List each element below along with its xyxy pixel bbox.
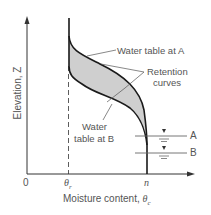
tick-n: n [144,178,149,188]
annotation-water-b-2: table at B [74,134,114,144]
leader-water-table-b [103,104,112,120]
y-axis-label: Elevation, Z [13,63,23,123]
leader-water-table-a [87,50,116,56]
annotation-retention-1: Retention [147,67,188,77]
water-table-a-icon [162,129,166,133]
water-table-b-icon [162,146,166,150]
level-b-label: B [190,148,197,158]
x-axis-label: Moisture content, θc [63,194,151,207]
x-axis-arrow-icon [187,172,195,177]
tick-theta-r: θr [64,178,72,191]
theta-r-sub: r [69,183,72,191]
theta-c-sub: c [147,199,150,207]
diagram-canvas [0,0,211,215]
y-axis-label-text: Elevation, Z [12,67,23,120]
leader-retention-2 [125,72,144,88]
level-a-label: A [190,131,197,141]
annotation-water-table-a: Water table at A [117,46,184,56]
y-axis-arrow-icon [25,16,30,24]
tick-origin: 0 [23,178,29,188]
x-axis-label-text: Moisture content, [63,193,142,204]
annotation-water-b-1: Water [82,122,107,132]
annotation-retention-2: curves [153,78,181,88]
